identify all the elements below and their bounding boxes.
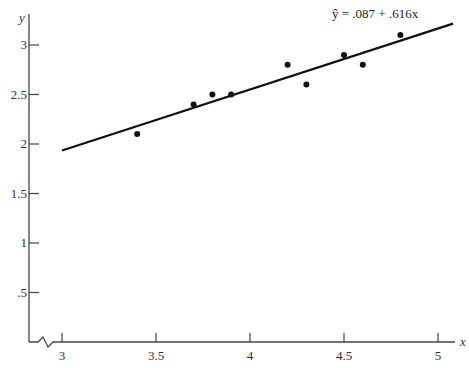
data-points [134,32,403,137]
data-point [397,32,403,38]
data-point [228,92,234,98]
y-tick-label: 2.5 [11,87,27,102]
y-axis-label: y [17,10,25,25]
data-point [341,52,347,58]
y-tick-label: 2 [21,136,28,151]
data-point [209,92,215,98]
regression-equation: ŷ = .087 + .616x [332,6,419,21]
data-point [285,62,291,68]
regression-line [62,24,453,151]
x-tick-label: 4 [247,348,254,363]
data-point [360,62,366,68]
axis-ticks: .511.522.5333.544.55 [11,37,442,363]
axes: yx [17,10,466,349]
y-tick-label: 1 [21,235,28,250]
y-tick-label: 1.5 [11,186,27,201]
x-tick-label: 5 [435,348,442,363]
x-axis-label: x [459,334,466,349]
data-point [303,82,309,88]
scatter-chart: yx .511.522.5333.544.55 ŷ = .087 + .616x [0,0,469,368]
data-point [134,131,140,137]
regression-line-path [62,24,453,151]
y-tick-label: 3 [21,37,28,52]
x-tick-label: 4.5 [336,348,352,363]
x-tick-label: 3.5 [148,348,164,363]
y-tick-label: .5 [17,285,27,300]
x-axis-line-with-break [29,337,455,347]
x-tick-label: 3 [59,348,66,363]
data-point [191,101,197,107]
